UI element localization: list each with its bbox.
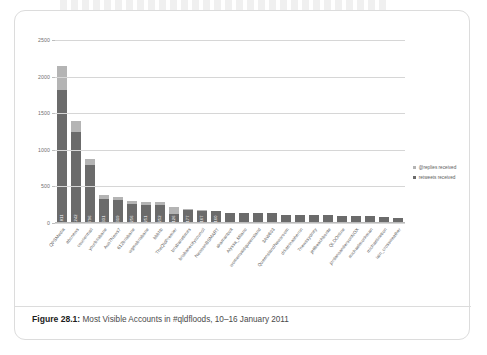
bar-slot — [321, 40, 335, 223]
bar-slot: 252 — [153, 40, 167, 223]
stacked-bar[interactable]: 319 — [113, 197, 122, 223]
x-label-slot: drkatrinasherrin — [293, 225, 307, 295]
stacked-bar[interactable]: 1811 — [57, 66, 66, 223]
gridline — [55, 186, 405, 187]
bar-slot: 331 — [97, 40, 111, 223]
x-label-slot: QueenslandNewsroom — [279, 225, 293, 295]
legend-label-replies: @replies received — [419, 165, 457, 170]
bar-slot — [335, 40, 349, 223]
x-label-slot: Alyssa_Milano — [237, 225, 251, 295]
bar-segment-retweets: 251 — [141, 205, 150, 223]
stacked-bar[interactable]: 251 — [141, 202, 150, 223]
x-label-slot: QPSMedia — [55, 225, 69, 295]
bar-slot: 796 — [83, 40, 97, 223]
bar-slot — [223, 40, 237, 223]
x-label-slot: NewsonBSMART — [209, 225, 223, 295]
stacked-bar[interactable]: 796 — [85, 159, 94, 223]
gridline — [55, 150, 405, 151]
y-tick-mark — [52, 186, 55, 187]
y-tick-mark — [52, 40, 55, 41]
y-tick-mark — [52, 150, 55, 151]
bar-slot — [237, 40, 251, 223]
x-label-slot: jordansandersonNOX — [349, 225, 363, 295]
caption-title: Most Visible Accounts in #qldfloods, 10–… — [80, 315, 289, 324]
bar-segment-retweets: 796 — [85, 165, 94, 223]
x-label-slot: QLDOnline — [335, 225, 349, 295]
bar-slot: 1811 — [55, 40, 69, 223]
x-label-slot: iain_crossweather — [391, 225, 405, 295]
stacked-bar[interactable]: 1242 — [71, 121, 80, 223]
bar-series-container: 18111242796331319256251252126177167160 — [55, 40, 405, 223]
bar-slot — [377, 40, 391, 223]
bar-slot: 160 — [209, 40, 223, 223]
bar-segment-retweets: 1811 — [57, 90, 66, 223]
stacked-bar[interactable]: 126 — [169, 207, 178, 223]
figure-page: 18111242796331319256251252126177167160 0… — [0, 0, 487, 355]
y-tick-label: 1500 — [38, 110, 50, 116]
y-tick-label: 2000 — [38, 74, 50, 80]
y-tick-label: 2500 — [38, 37, 50, 43]
x-label-slot: 7newssydney — [307, 225, 321, 295]
bar-segment-retweets: 256 — [127, 204, 136, 223]
stacked-bar[interactable]: 256 — [127, 201, 136, 223]
legend-swatch-replies-icon — [413, 166, 416, 169]
stacked-bar[interactable]: 177 — [183, 209, 192, 223]
bar-slot — [363, 40, 377, 223]
figure-caption: Figure 28.1: Most Visible Accounts in #q… — [32, 314, 452, 326]
bar-segment-replies — [71, 121, 80, 132]
x-label-slot: 3AW693 — [265, 225, 279, 295]
bar-slot — [391, 40, 405, 223]
x-label-slot: abcnews — [69, 225, 83, 295]
plot-region: 18111242796331319256251252126177167160 0… — [55, 40, 405, 223]
bar-slot — [307, 40, 321, 223]
figure-card: 18111242796331319256251252126177167160 0… — [14, 10, 470, 340]
bar-slot: 251 — [139, 40, 153, 223]
gridline — [55, 77, 405, 78]
legend-label-retweets: retweets received — [419, 175, 456, 180]
x-axis-label: QPSMedia — [48, 227, 66, 248]
y-tick-mark — [52, 223, 55, 224]
x-axis-line — [55, 222, 405, 223]
y-tick-label: 500 — [41, 183, 50, 189]
x-label-slot: bbbhb — [153, 225, 167, 295]
bar-slot: 319 — [111, 40, 125, 223]
legend-item-replies: @replies received — [413, 165, 471, 170]
bar-slot — [251, 40, 265, 223]
chart-area: 18111242796331319256251252126177167160 0… — [15, 11, 471, 296]
bar-slot: 256 — [125, 40, 139, 223]
bar-segment-retweets: 1242 — [71, 132, 80, 223]
y-tick-label: 0 — [47, 220, 50, 226]
stacked-bar[interactable]: 331 — [99, 195, 108, 223]
caption-number: Figure 28.1: — [32, 314, 80, 324]
legend-item-retweets: retweets received — [413, 175, 471, 180]
chart-legend: @replies received retweets received — [413, 165, 471, 185]
gridline — [55, 113, 405, 114]
bar-segment-retweets: 252 — [155, 205, 164, 223]
x-label-slot: Aus7News7 — [111, 225, 125, 295]
x-axis-label: bbbhb — [152, 227, 164, 240]
x-label-slot: michaelinetion — [377, 225, 391, 295]
bar-slot — [279, 40, 293, 223]
x-label-slot: wgmobrisbane — [139, 225, 153, 295]
bar-segment-replies — [57, 66, 66, 91]
page-bleed-text — [60, 0, 390, 10]
bar-slot — [349, 40, 363, 223]
y-tick-mark — [52, 113, 55, 114]
y-tick-label: 1000 — [38, 147, 50, 153]
legend-swatch-retweets-icon — [413, 176, 416, 179]
x-label-slot: michaelmonkman — [363, 225, 377, 295]
bar-segment-retweets: 331 — [99, 199, 108, 223]
x-label-slot: brisbanecitycouncil — [195, 225, 209, 295]
bar-slot — [265, 40, 279, 223]
bar-slot: 167 — [195, 40, 209, 223]
bar-slot: 177 — [181, 40, 195, 223]
bar-segment-retweets: 319 — [113, 200, 122, 223]
x-axis-labels: QPSMediaabcnewscouriermailyourbrisbaneAu… — [55, 225, 405, 295]
x-label-slot: 612brisbane — [125, 225, 139, 295]
bar-slot: 126 — [167, 40, 181, 223]
x-label-slot: couriermail — [83, 225, 97, 295]
bar-slot — [293, 40, 307, 223]
gridline — [55, 223, 405, 224]
stacked-bar[interactable]: 252 — [155, 202, 164, 223]
caption-divider — [15, 306, 471, 307]
